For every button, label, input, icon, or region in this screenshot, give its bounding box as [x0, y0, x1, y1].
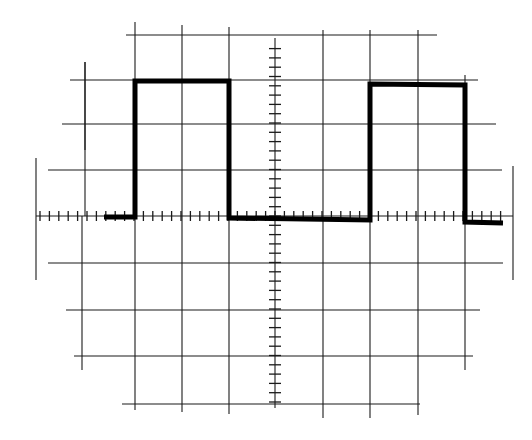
center-axes	[36, 38, 513, 408]
oscilloscope-graticule	[0, 0, 532, 440]
square-wave-trace	[104, 81, 503, 223]
